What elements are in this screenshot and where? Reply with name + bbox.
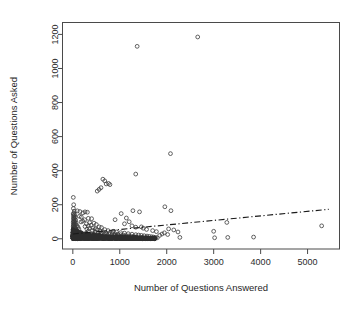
x-tick-label: 4000: [251, 257, 271, 267]
y-tick-label: 600: [50, 129, 60, 144]
y-tick-label: 1000: [50, 58, 60, 78]
x-tick-label: 0: [70, 257, 75, 267]
x-tick-label: 3000: [204, 257, 224, 267]
y-tick-label: 200: [50, 197, 60, 212]
x-tick-label: 1000: [110, 257, 130, 267]
scatter-plot-figure: 020040060080010001200 010002000300040005…: [0, 0, 355, 310]
y-tick-label: 800: [50, 95, 60, 110]
chart-canvas: 020040060080010001200 010002000300040005…: [0, 0, 355, 310]
y-tick-label: 1200: [50, 24, 60, 44]
y-axis-title: Number of Questions Asked: [8, 77, 19, 195]
x-axis-title: Number of Questions Answered: [134, 282, 268, 293]
y-tick-label: 0: [50, 236, 60, 241]
y-tick-label: 400: [50, 163, 60, 178]
x-tick-label: 2000: [157, 257, 177, 267]
x-tick-label: 5000: [298, 257, 318, 267]
